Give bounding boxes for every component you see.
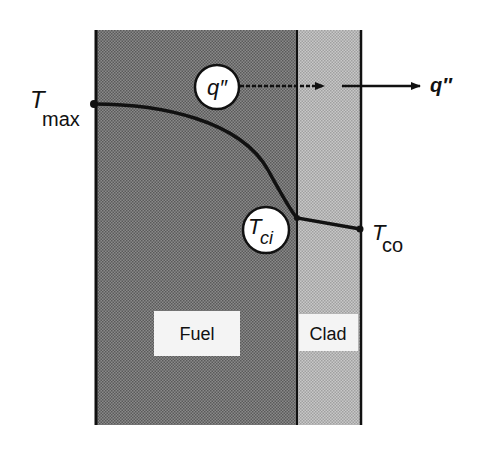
t-co-point <box>357 226 364 233</box>
clad-label: Clad <box>309 324 346 344</box>
t-co-label-sub: co <box>382 234 403 256</box>
heat-flux-circle-label: q″ <box>207 75 228 100</box>
t-ci-label-sub: ci <box>260 228 274 248</box>
fuel-clad-temperature-diagram: q″ q″ T max T ci T co Fuel Clad <box>0 0 478 457</box>
heat-flux-out-label: q″ <box>430 74 453 96</box>
fuel-label: Fuel <box>179 324 214 344</box>
t-max-point <box>90 100 98 108</box>
t-max-label-sub: max <box>42 108 80 130</box>
t-ci-point <box>294 215 300 221</box>
